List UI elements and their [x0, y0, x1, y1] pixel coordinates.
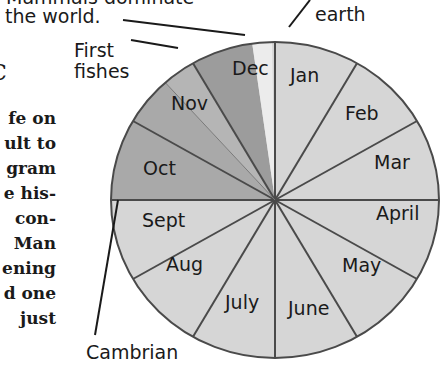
body-line: ening — [0, 256, 56, 281]
label-oct: Oct — [143, 157, 176, 179]
body-line: con- — [0, 206, 56, 231]
body-line: d one — [0, 281, 56, 306]
body-line: just — [0, 306, 56, 331]
cambrian-leader-line — [95, 200, 118, 335]
body-line: e his- — [0, 181, 56, 206]
body-text-column: fe on ult to gram e his- con- Man ening … — [0, 106, 56, 331]
label-nov: Nov — [171, 92, 208, 114]
label-feb: Feb — [345, 102, 379, 124]
body-line: gram — [0, 156, 56, 181]
body-line: ult to — [0, 131, 56, 156]
first-fishes-label-line1: First — [74, 41, 114, 60]
body-line: Man — [0, 231, 56, 256]
mammals-label-line2: the world. — [5, 7, 101, 26]
label-july: July — [224, 291, 259, 313]
label-june: June — [287, 297, 329, 319]
label-sept: Sept — [142, 209, 185, 231]
year-clock-pie-chart: Jan Feb Mar April May June July Aug Sept… — [0, 0, 446, 372]
diagram-page: Jan Feb Mar April May June July Aug Sept… — [0, 0, 446, 372]
label-may: May — [342, 254, 381, 276]
earth-leader-line — [289, 0, 310, 27]
label-april: April — [376, 202, 419, 224]
earth-label: earth — [315, 5, 366, 24]
heading-fragment-c: C — [0, 60, 4, 85]
body-line: fe on — [0, 106, 56, 131]
label-jan: Jan — [289, 64, 319, 86]
label-aug: Aug — [166, 253, 203, 275]
first-fishes-leader-line — [131, 40, 178, 48]
first-fishes-label-line2: fishes — [74, 62, 130, 81]
mammals-leader-line — [123, 20, 245, 35]
label-mar: Mar — [374, 151, 410, 173]
cambrian-label: Cambrian — [86, 343, 178, 362]
label-dec: Dec — [232, 57, 269, 79]
